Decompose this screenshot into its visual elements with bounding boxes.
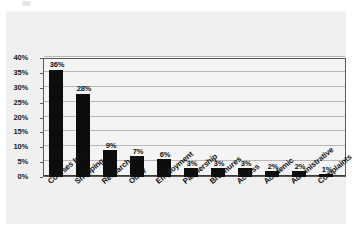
bar: [76, 94, 90, 177]
bar-value-label: 7%: [125, 148, 151, 156]
y-axis-tick-label: 35%: [0, 69, 28, 77]
chart-panel: 40%35%30%25%20%15%10%5%0% 36%28%9%7%6%3%…: [6, 12, 346, 224]
y-axis-tick-label: 0%: [0, 173, 28, 181]
x-axis-category-labels: Courses InfoShoppingResearchOtherEmploym…: [43, 179, 346, 237]
bar-value-label: 36%: [44, 61, 70, 69]
y-axis-tick-label: 30%: [0, 84, 28, 92]
y-axis-tick-label: 10%: [0, 143, 28, 151]
y-axis-tick-label: 40%: [0, 54, 28, 62]
y-axis-tick-label: 5%: [0, 158, 28, 166]
bar-slot: 7%: [126, 58, 153, 177]
bars-group: 36%28%9%7%6%3%3%3%2%2%1%: [43, 58, 346, 177]
bar: [49, 70, 63, 177]
bar-value-label: 9%: [98, 142, 124, 150]
bar-value-label: 28%: [71, 85, 97, 93]
y-axis-tick-label: 20%: [0, 114, 28, 122]
bar-value-label: 6%: [152, 151, 178, 159]
scan-speck-artifact: [22, 1, 31, 6]
gridline: [44, 56, 345, 57]
y-axis-tick-label: 15%: [0, 128, 28, 136]
y-axis-tick-mark: [40, 177, 43, 178]
y-axis-tick-label: 25%: [0, 99, 28, 107]
